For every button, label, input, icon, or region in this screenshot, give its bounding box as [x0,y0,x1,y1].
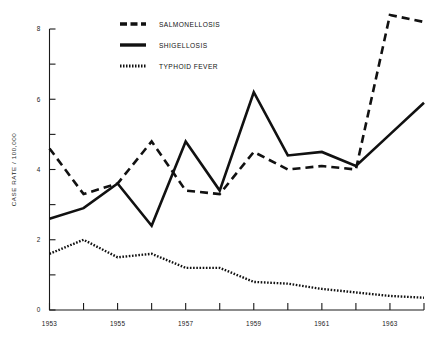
legend-label-typhoid-fever: TYPHOID FEVER [159,63,218,70]
legend-label-salmonellosis: SALMONELLOSIS [159,21,220,28]
y-tick-label: 6 [37,96,41,103]
axis-spine [50,29,425,310]
series-line-salmonellosis [50,15,425,194]
chart-figure: 02468195319551957195919611963CASE RATE /… [0,0,444,347]
y-tick-label: 0 [37,306,41,313]
x-tick-label: 1963 [382,320,398,327]
x-tick-label: 1957 [178,320,194,327]
y-tick-label: 4 [37,166,41,173]
x-tick-label: 1961 [314,320,330,327]
x-tick-label: 1955 [110,320,126,327]
y-tick-label: 2 [37,236,41,243]
x-tick-label: 1959 [246,320,262,327]
x-tick-label: 1953 [42,320,58,327]
line-chart-canvas: 02468195319551957195919611963CASE RATE /… [0,0,444,347]
legend-label-shigellosis: SHIGELLOSIS [159,42,208,49]
series-line-typhoid-fever [50,240,425,298]
y-tick-label: 8 [37,25,41,32]
y-axis-title: CASE RATE / 100,000 [10,133,17,207]
